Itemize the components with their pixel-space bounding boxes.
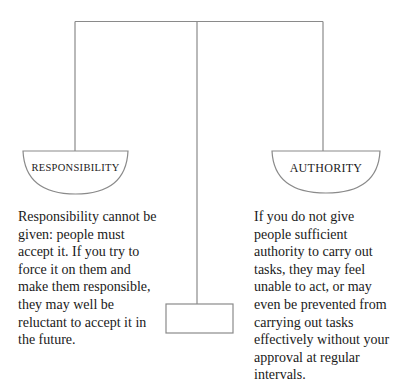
right-pan-description: If you do not give people sufficient aut… — [254, 208, 398, 383]
right-pan-label: AUTHORITY — [272, 161, 380, 176]
base — [166, 304, 233, 333]
left-pan-label: RESPONSIBILITY — [23, 162, 128, 173]
left-pan-description: Responsibility cannot be given: people m… — [18, 208, 168, 349]
